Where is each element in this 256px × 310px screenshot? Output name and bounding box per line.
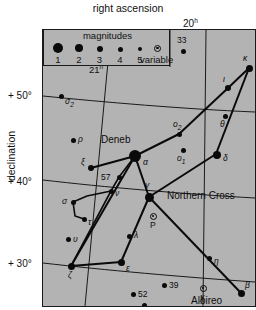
ra-tick-20h: 20h xyxy=(183,17,198,29)
variable-legend-label: variable xyxy=(140,54,173,65)
star-label-57: 57 xyxy=(101,172,110,182)
star-label-xi: ξ xyxy=(81,157,85,167)
star-label-33: 33 xyxy=(177,35,186,45)
star-label-alpha: α xyxy=(143,157,148,167)
star-52[interactable] xyxy=(131,292,136,297)
magnitude-dot-3 xyxy=(97,46,103,52)
northern-cross-label: Northern Cross xyxy=(167,190,235,201)
albireo-label: Albireo xyxy=(191,295,222,306)
star-nu[interactable] xyxy=(109,189,114,194)
star-theta[interactable] xyxy=(223,114,228,119)
star-label-kappa: κ xyxy=(243,53,247,63)
constellation-line-group xyxy=(71,68,249,293)
star-label-nu: ν xyxy=(115,188,119,198)
deneb-label: Deneb xyxy=(101,134,130,145)
star-label-52: 52 xyxy=(138,289,147,299)
ra-line-20h xyxy=(203,30,206,306)
star-sigma[interactable] xyxy=(71,200,76,205)
magnitude-label-2: 2 xyxy=(72,54,86,65)
star-label-delta: δ xyxy=(223,153,228,163)
magnitude-dot-1 xyxy=(53,43,63,53)
star-iota[interactable] xyxy=(225,85,231,91)
star-zeta[interactable] xyxy=(68,263,75,270)
dec-tick-50: + 50° xyxy=(8,90,32,101)
star-label-o1: o1 xyxy=(177,153,185,165)
star-label-theta: θ xyxy=(220,119,225,129)
star-beta-albireo[interactable] xyxy=(238,290,245,297)
dec-tick-30: + 30° xyxy=(8,258,32,269)
star-delta[interactable] xyxy=(213,151,221,159)
star-o2[interactable] xyxy=(177,132,182,137)
magnitude-dot-4 xyxy=(118,47,123,52)
star-label-o2: o2 xyxy=(173,119,181,131)
grid-and-constellation-lines xyxy=(43,30,255,306)
star-label-rho: ρ xyxy=(78,134,83,144)
star-epsilon[interactable] xyxy=(118,259,125,266)
star-kappa[interactable] xyxy=(246,65,253,72)
magnitude-label-4: 4 xyxy=(113,54,127,65)
star-upsilon[interactable] xyxy=(66,237,71,242)
magnitude-dot-5 xyxy=(138,47,142,51)
star-alpha-deneb[interactable] xyxy=(129,150,141,162)
star-label-upsilon: υ xyxy=(73,234,78,244)
star-41[interactable] xyxy=(142,303,147,308)
star-39[interactable] xyxy=(162,283,167,288)
dec-tick-40: + 40° xyxy=(8,176,32,187)
dec-line-50 xyxy=(43,96,255,112)
star-gamma[interactable] xyxy=(145,193,154,202)
star-lambda[interactable] xyxy=(127,234,132,239)
magnitude-label-3: 3 xyxy=(93,54,107,65)
variable-star-symbol xyxy=(154,45,161,52)
star-o1[interactable] xyxy=(181,148,186,153)
star-rho[interactable] xyxy=(71,138,76,143)
star-label-tau: τ xyxy=(88,217,91,227)
magnitude-legend: magnitudes 1 2 3 4 5 variable xyxy=(43,29,170,66)
star-label-sigma: σ xyxy=(62,196,67,206)
star-57[interactable] xyxy=(117,175,122,180)
star-label-39: 39 xyxy=(169,280,178,290)
star-label-beta: β xyxy=(245,280,250,290)
right-ascension-axis-title: right ascension xyxy=(0,2,256,14)
magnitude-label-1: 1 xyxy=(51,54,65,65)
star-label-sigma2: σ2 xyxy=(65,96,74,108)
star-label-lambda: λ xyxy=(134,230,138,240)
star-label-gamma: γ xyxy=(145,180,149,190)
star-33[interactable] xyxy=(181,49,186,54)
star-sigma2[interactable] xyxy=(59,94,64,99)
star-label-iota: ι xyxy=(223,74,225,84)
star-label-P: P xyxy=(150,220,156,230)
star-tau[interactable] xyxy=(82,217,87,222)
star-chart-figure: right ascension declination 20h + 50° + … xyxy=(0,0,256,310)
sky-map-plot-area: 21h σ2 ρ ξ 57 Deneb α o2 o1 ι κ θ δ γ No… xyxy=(42,29,256,307)
legend-title: magnitudes xyxy=(44,30,171,41)
magnitude-dot-2 xyxy=(75,44,83,52)
star-label-epsilon: ε xyxy=(126,263,130,273)
star-label-zeta: ζ xyxy=(68,270,72,280)
star-P-variable[interactable] xyxy=(150,213,157,220)
star-label-eta: η xyxy=(214,256,219,266)
star-xi[interactable] xyxy=(88,165,94,171)
star-eta[interactable] xyxy=(207,256,212,261)
star-chi-variable[interactable] xyxy=(200,285,207,292)
